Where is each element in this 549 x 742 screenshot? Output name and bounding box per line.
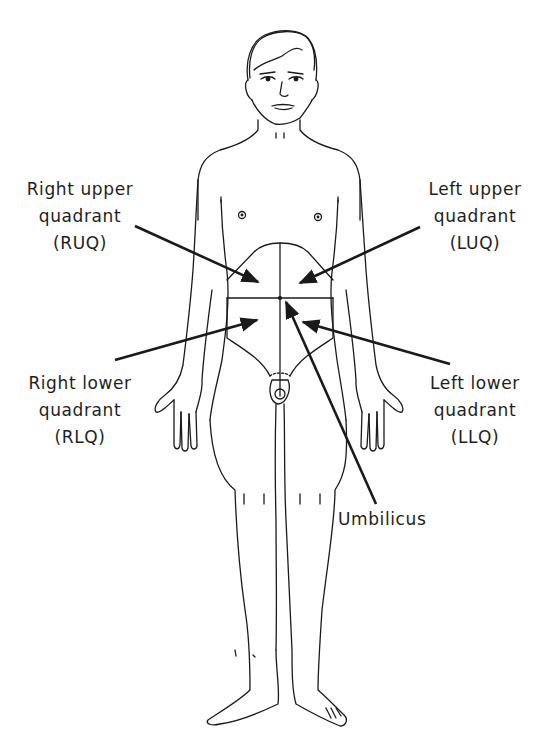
label-luq-line2: quadrant (410, 203, 540, 230)
arrow-ruq (135, 226, 258, 282)
head (246, 31, 318, 125)
label-luq-abbr: (LUQ) (410, 230, 540, 257)
arrow-umbilicus (286, 302, 376, 504)
arrow-rlq (115, 320, 257, 360)
arms (155, 180, 403, 451)
label-llq-line1: Left lower (410, 370, 540, 397)
label-umbilicus-text: Umbilicus (338, 506, 458, 533)
label-umbilicus: Umbilicus (338, 506, 458, 533)
label-ruq-line1: Right upper (10, 176, 150, 203)
label-right-upper-quadrant: Right upper quadrant (RUQ) (10, 176, 150, 257)
label-luq-line1: Left upper (410, 176, 540, 203)
label-left-lower-quadrant: Left lower quadrant (LLQ) (410, 370, 540, 451)
arrow-luq (300, 227, 420, 283)
torso (198, 120, 360, 420)
label-left-upper-quadrant: Left upper quadrant (LUQ) (410, 176, 540, 257)
label-rlq-abbr: (RLQ) (10, 424, 150, 451)
label-llq-line2: quadrant (410, 397, 540, 424)
label-llq-abbr: (LLQ) (410, 424, 540, 451)
label-right-lower-quadrant: Right lower quadrant (RLQ) (10, 370, 150, 451)
label-ruq-line2: quadrant (10, 203, 150, 230)
legs (207, 404, 346, 726)
label-ruq-abbr: (RUQ) (10, 230, 150, 257)
label-rlq-line2: quadrant (10, 397, 150, 424)
label-rlq-line1: Right lower (10, 370, 150, 397)
